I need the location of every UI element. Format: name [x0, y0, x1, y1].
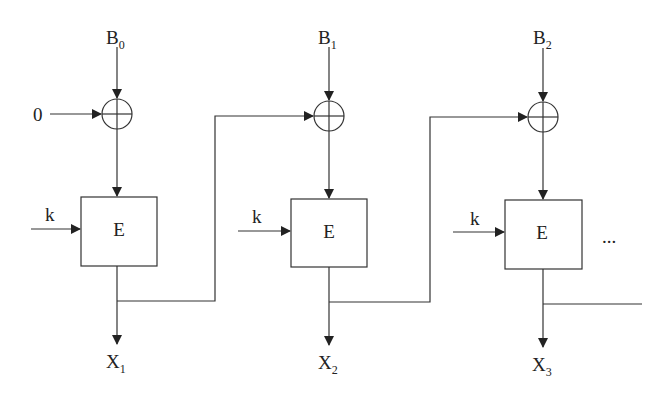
stage-1: B0 0 E k X1: [31, 27, 313, 376]
output-label-x3: X3: [532, 354, 552, 379]
stage-3: B2 E k ... X3: [453, 27, 642, 379]
input-label-b0: B0: [106, 27, 125, 52]
key-label: k: [45, 204, 55, 225]
chain-arrow-2-to-3: [329, 117, 527, 302]
stage-2: B1 E k X2: [238, 27, 527, 377]
encrypt-label: E: [323, 221, 335, 242]
xor-icon: [102, 99, 132, 129]
key-label: k: [252, 206, 262, 227]
continuation-ellipsis: ...: [602, 226, 616, 247]
cbc-diagram: B0 0 E k X1 B1 E k X2: [0, 0, 672, 403]
input-label-b2: B2: [533, 27, 552, 52]
initial-zero-label: 0: [33, 104, 43, 125]
key-label: k: [470, 208, 480, 229]
output-label-x1: X1: [106, 351, 126, 376]
encrypt-label: E: [113, 219, 125, 240]
xor-icon: [528, 102, 558, 132]
chain-arrow-1-to-2: [117, 116, 313, 301]
output-label-x2: X2: [318, 352, 338, 377]
input-label-b1: B1: [318, 27, 337, 52]
xor-icon: [314, 101, 344, 131]
encrypt-label: E: [536, 222, 548, 243]
